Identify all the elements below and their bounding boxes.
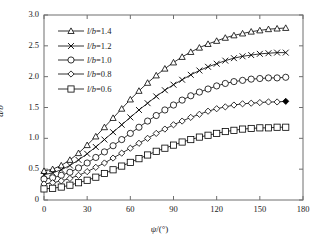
data-point: [170, 102, 176, 108]
y-tick-label: 0.5: [0, 163, 39, 173]
data-point: [153, 112, 159, 118]
data-point: [119, 136, 125, 142]
data-point: [58, 178, 64, 184]
data-point: [179, 118, 185, 124]
legend-item: l/b=1.4: [58, 24, 111, 38]
legend-label: l/b=0.8: [87, 69, 111, 79]
data-point: [153, 130, 159, 136]
data-point: [136, 156, 142, 162]
data-point: [153, 93, 159, 99]
data-point: [162, 66, 168, 72]
data-point: [162, 145, 168, 151]
x-tick-label: 0: [24, 204, 64, 214]
data-point: [101, 149, 107, 155]
x-tick-label: 60: [110, 204, 150, 214]
data-point: [205, 41, 211, 47]
data-point: [257, 99, 263, 105]
data-point: [145, 118, 151, 124]
data-point: [145, 152, 151, 158]
data-point: [205, 132, 211, 138]
legend-label-value: =1.2: [96, 41, 111, 51]
x-tick-label: 150: [240, 204, 280, 214]
legend-item: l/b=0.8: [58, 67, 111, 81]
legend-label-value: =0.8: [96, 69, 111, 79]
legend-marker-square: [58, 82, 84, 96]
data-point: [58, 184, 64, 190]
data-point: [84, 169, 90, 175]
y-tick-label: 3.0: [0, 9, 39, 19]
data-point: [248, 125, 254, 131]
data-point: [110, 129, 116, 135]
data-point: [283, 25, 289, 31]
data-point: [188, 49, 194, 55]
data-point: [248, 100, 254, 106]
chart-figure: 00.51.01.52.02.53.0 0306090120150180 d/b…: [0, 0, 319, 241]
data-point: [274, 124, 280, 130]
data-point: [67, 182, 73, 188]
data-point: [110, 155, 116, 161]
data-point: [265, 75, 271, 81]
data-point: [239, 101, 245, 107]
data-point: [274, 75, 280, 81]
data-point: [101, 137, 107, 143]
data-point: [283, 98, 289, 104]
data-point: [110, 167, 116, 173]
data-point: [136, 140, 142, 146]
data-point: [214, 83, 220, 89]
data-point: [179, 139, 185, 145]
data-point: [214, 130, 220, 136]
data-point: [222, 58, 228, 64]
data-point: [196, 89, 202, 95]
data-point: [188, 93, 194, 99]
legend-label: l/b=1.4: [87, 26, 111, 36]
legend-label: l/b=1.2: [87, 41, 111, 51]
data-point: [170, 142, 176, 148]
data-point: [214, 61, 220, 67]
data-point: [136, 124, 142, 130]
data-point: [265, 125, 271, 131]
legend-label-value: =1.4: [96, 26, 111, 36]
data-point: [179, 77, 185, 83]
data-point: [205, 86, 211, 92]
data-point: [222, 128, 228, 134]
legend-label-value: =0.6: [96, 84, 111, 94]
x-tick-label: 180: [283, 204, 319, 214]
data-point: [75, 180, 81, 186]
data-point: [170, 59, 176, 65]
data-point: [67, 175, 73, 181]
data-point: [239, 126, 245, 132]
data-point: [231, 55, 237, 61]
data-point: [76, 157, 82, 163]
data-point: [179, 54, 185, 60]
data-point: [75, 165, 81, 171]
y-axis-label: d/b: [0, 104, 25, 118]
series-line: [44, 101, 286, 184]
data-point: [93, 144, 99, 150]
data-point: [274, 99, 280, 105]
data-point: [196, 45, 202, 51]
data-point: [171, 82, 177, 88]
data-point: [222, 104, 228, 110]
data-point: [283, 124, 289, 130]
data-point: [110, 143, 116, 149]
legend-label-symbol: l/b: [87, 84, 96, 94]
legend-label-symbol: l/b: [87, 41, 96, 51]
data-point: [101, 160, 107, 166]
legend-label: l/b=1.0: [87, 55, 111, 65]
y-tick-label: 2.0: [0, 71, 39, 81]
x-tick-label: 30: [67, 204, 107, 214]
data-point: [162, 126, 168, 132]
data-point: [179, 97, 185, 103]
legend-label-symbol: l/b: [87, 55, 96, 65]
legend-label-value: =1.0: [96, 55, 111, 65]
legend-label: l/b=0.6: [87, 84, 111, 94]
data-point: [101, 170, 107, 176]
data-point: [222, 80, 228, 86]
data-point: [188, 136, 194, 142]
data-point: [127, 114, 133, 120]
data-point: [231, 102, 237, 108]
data-point: [162, 107, 168, 113]
data-point: [127, 130, 133, 136]
x-axis-label-unit: /(°): [156, 224, 168, 234]
data-point: [188, 72, 194, 78]
